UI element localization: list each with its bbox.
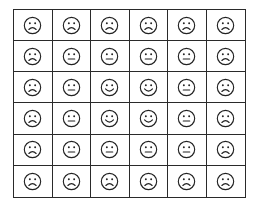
neutral-face-icon xyxy=(139,47,158,66)
grid-cell xyxy=(14,41,53,72)
neutral-face-icon xyxy=(62,140,81,159)
neutral-face-icon xyxy=(177,78,196,97)
neutral-face-icon xyxy=(100,47,119,66)
face-grid xyxy=(13,9,246,198)
grid-cell xyxy=(168,135,207,166)
grid-cell xyxy=(207,103,246,134)
happy-face-icon xyxy=(139,109,158,128)
grid-cell xyxy=(53,10,92,41)
neutral-face-icon xyxy=(100,140,119,159)
grid-cell xyxy=(53,41,92,72)
sad-face-icon xyxy=(177,16,196,35)
grid-cell xyxy=(53,135,92,166)
sad-face-icon xyxy=(23,140,42,159)
grid-cell xyxy=(168,166,207,197)
grid-cell xyxy=(53,72,92,103)
grid-cell xyxy=(130,72,169,103)
neutral-face-icon xyxy=(177,140,196,159)
neutral-face-icon xyxy=(62,109,81,128)
sad-face-icon xyxy=(216,109,235,128)
grid-cell xyxy=(168,41,207,72)
grid-cell xyxy=(168,72,207,103)
grid-cell xyxy=(207,72,246,103)
grid-cell xyxy=(130,135,169,166)
sad-face-icon xyxy=(177,172,196,191)
grid-cell xyxy=(53,103,92,134)
sad-face-icon xyxy=(100,172,119,191)
grid-cell xyxy=(207,10,246,41)
grid-cell xyxy=(168,10,207,41)
grid-cell xyxy=(14,135,53,166)
sad-face-icon xyxy=(62,172,81,191)
grid-cell xyxy=(14,10,53,41)
grid-cell xyxy=(130,10,169,41)
grid-cell xyxy=(14,72,53,103)
sad-face-icon xyxy=(23,16,42,35)
sad-face-icon xyxy=(216,47,235,66)
sad-face-icon xyxy=(216,172,235,191)
grid-cell xyxy=(130,103,169,134)
grid-cell xyxy=(130,166,169,197)
grid-cell xyxy=(91,135,130,166)
neutral-face-icon xyxy=(177,109,196,128)
grid-cell xyxy=(91,103,130,134)
grid-cell xyxy=(207,135,246,166)
sad-face-icon xyxy=(216,78,235,97)
sad-face-icon xyxy=(216,140,235,159)
grid-cell xyxy=(91,72,130,103)
neutral-face-icon xyxy=(62,78,81,97)
grid-cell xyxy=(207,166,246,197)
grid-cell xyxy=(14,166,53,197)
neutral-face-icon xyxy=(62,47,81,66)
grid-cell xyxy=(91,166,130,197)
grid-cell xyxy=(53,166,92,197)
grid-cell xyxy=(14,103,53,134)
sad-face-icon xyxy=(139,16,158,35)
sad-face-icon xyxy=(23,172,42,191)
sad-face-icon xyxy=(23,109,42,128)
grid-cell xyxy=(91,41,130,72)
neutral-face-icon xyxy=(177,47,196,66)
grid-cell xyxy=(91,10,130,41)
grid-cell xyxy=(130,41,169,72)
sad-face-icon xyxy=(139,172,158,191)
sad-face-icon xyxy=(216,16,235,35)
happy-face-icon xyxy=(100,109,119,128)
grid-cell xyxy=(207,41,246,72)
happy-face-icon xyxy=(139,78,158,97)
sad-face-icon xyxy=(100,16,119,35)
grid-cell xyxy=(168,103,207,134)
happy-face-icon xyxy=(100,78,119,97)
sad-face-icon xyxy=(23,78,42,97)
sad-face-icon xyxy=(23,47,42,66)
sad-face-icon xyxy=(62,16,81,35)
neutral-face-icon xyxy=(139,140,158,159)
